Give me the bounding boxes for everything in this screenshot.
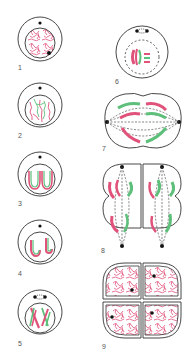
stage-label-9: 9 [102, 343, 106, 350]
stage-label-1: 1 [18, 64, 22, 71]
nucleolus-icon [47, 51, 51, 55]
cell-stage-2 [18, 83, 62, 127]
stage-label-7: 7 [102, 145, 106, 152]
stage-label-4: 4 [18, 270, 22, 277]
stage-label-2: 2 [18, 132, 22, 139]
centrosome-icon [38, 155, 41, 158]
stage-label-8: 8 [101, 247, 105, 254]
cell-stage-9 [103, 263, 181, 338]
centrosome-icon [38, 21, 41, 24]
centrosome-icon [38, 224, 41, 227]
centrosome-icon [38, 86, 41, 89]
cell-stage-4 [18, 220, 62, 264]
cell-stage-3 [18, 152, 62, 196]
stage-label-6: 6 [115, 78, 119, 85]
cell-stage-8 [103, 164, 181, 248]
stage-label-3: 3 [18, 200, 22, 207]
cell-stage-7 [105, 93, 181, 148]
mitosis-diagram [0, 0, 192, 363]
cell-stage-1 [18, 17, 62, 61]
cell-stage-6 [116, 26, 168, 78]
cell-stage-5 [18, 290, 62, 334]
stage-label-5: 5 [18, 340, 22, 347]
